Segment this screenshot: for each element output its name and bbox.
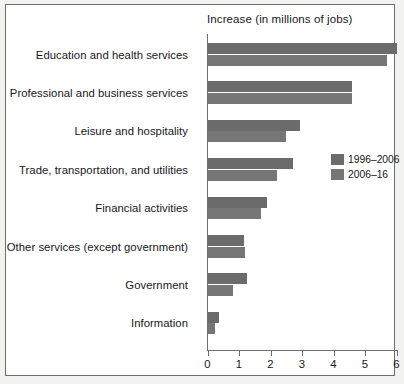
x-tick-label: 2 [267, 358, 273, 370]
legend-item: 2006–16 [331, 168, 400, 180]
bar-1 [208, 55, 388, 66]
x-tick-label: 0 [204, 358, 210, 370]
chart-legend: 1996–2006 2006–16 [331, 153, 400, 183]
bar-0 [208, 235, 244, 246]
bar-0 [208, 158, 293, 169]
x-tick [271, 350, 272, 356]
x-tick [208, 350, 209, 356]
category-label: Financial activities [0, 202, 188, 214]
bar-1 [208, 170, 277, 181]
bar-0 [208, 81, 353, 92]
bar-0 [208, 43, 397, 54]
x-tick [302, 350, 303, 356]
category-label: Trade, transportation, and utilities [0, 164, 188, 176]
x-tick-label: 4 [330, 358, 336, 370]
category-label: Other services (except government) [0, 241, 188, 253]
legend-swatch-icon [331, 154, 344, 165]
bar-1 [208, 208, 262, 219]
legend-item: 1996–2006 [331, 153, 400, 165]
bar-1 [208, 93, 353, 104]
legend-label: 2006–16 [348, 169, 388, 180]
legend-label: 1996–2006 [348, 154, 400, 165]
x-tick [334, 350, 335, 356]
bar-0 [208, 120, 301, 131]
bar-1 [208, 323, 216, 334]
chart-title: Increase (in millions of jobs) [207, 13, 353, 25]
bar-1 [208, 285, 233, 296]
bar-0 [208, 273, 247, 284]
category-label: Information [0, 317, 188, 329]
bar-1 [208, 247, 246, 258]
chart-frame: Increase (in millions of jobs) Education… [5, 4, 395, 376]
x-tick [365, 350, 366, 356]
x-tick [397, 350, 398, 356]
x-tick-label: 1 [236, 358, 242, 370]
legend-swatch-icon [331, 169, 344, 180]
x-tick-label: 6 [393, 358, 399, 370]
x-tick-label: 5 [362, 358, 368, 370]
category-label: Education and health services [0, 49, 188, 61]
bar-0 [208, 197, 268, 208]
category-label: Leisure and hospitality [0, 125, 188, 137]
bar-0 [208, 312, 219, 323]
category-label: Government [0, 279, 188, 291]
x-tick-label: 3 [299, 358, 305, 370]
bar-1 [208, 131, 287, 142]
category-label: Professional and business services [0, 87, 188, 99]
x-tick [239, 350, 240, 356]
